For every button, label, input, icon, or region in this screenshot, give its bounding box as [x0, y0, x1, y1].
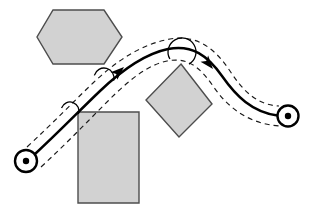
arc-2 [94, 68, 114, 81]
node-goal-center-dot [285, 113, 291, 119]
arrow-2-glyph [201, 55, 217, 72]
obstacle-rectangle [78, 112, 139, 203]
node-start [15, 150, 37, 172]
arc-1 [62, 102, 79, 114]
obstacle-diamond [146, 64, 212, 137]
node-start-center-dot [23, 158, 29, 164]
path-planning-figure [0, 0, 313, 214]
node-goal [278, 106, 299, 127]
diagram-canvas [0, 0, 313, 214]
configuration-node-layer [15, 106, 299, 173]
arrow-2 [201, 55, 217, 72]
obstacle-hexagon [37, 10, 122, 64]
